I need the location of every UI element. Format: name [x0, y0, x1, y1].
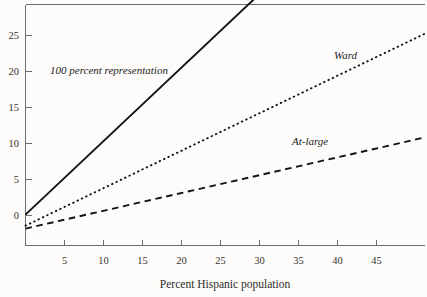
y-tick-label-25: 25: [9, 30, 20, 41]
x-tick-label-40: 40: [332, 255, 343, 266]
x-tick-label-5: 5: [62, 255, 67, 266]
chart-figure: 25 20 15 10 5 0 5 10 15 20 25 30: [0, 0, 427, 297]
series-label-ward: Ward: [334, 49, 358, 61]
x-tick-label-35: 35: [293, 255, 304, 266]
x-axis-title: Percent Hispanic population: [160, 278, 291, 291]
y-tick-label-20: 20: [9, 66, 20, 77]
y-tick-label-10: 10: [9, 138, 20, 149]
y-tick-label-0: 0: [14, 210, 19, 221]
x-tick-label-45: 45: [371, 255, 382, 266]
series-label-at-large: At-large: [291, 135, 328, 147]
x-tick-label-20: 20: [176, 255, 187, 266]
y-tick-label-5: 5: [14, 174, 19, 185]
x-tick-label-25: 25: [215, 255, 226, 266]
x-tick-label-10: 10: [98, 255, 109, 266]
x-tick-label-30: 30: [254, 255, 265, 266]
y-tick-label-15: 15: [9, 102, 20, 113]
x-tick-label-15: 15: [137, 255, 148, 266]
chart-canvas: 25 20 15 10 5 0 5 10 15 20 25 30: [0, 0, 427, 297]
figure-background: [0, 0, 427, 297]
series-label-100-percent-representation: 100 percent representation: [50, 64, 168, 76]
